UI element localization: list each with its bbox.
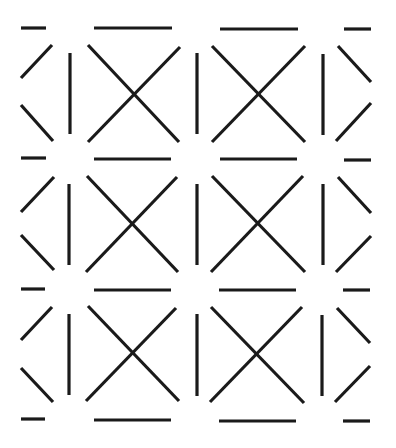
line-pattern-canvas xyxy=(0,0,396,448)
